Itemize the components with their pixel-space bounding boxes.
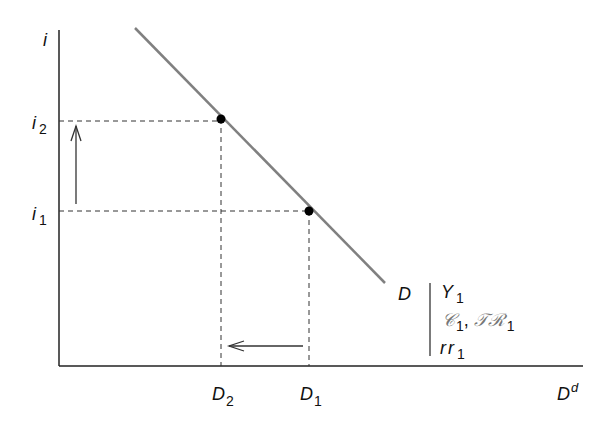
point-i2-D2	[217, 115, 226, 124]
money-demand-diagram: i i2 i1 D2 D1 Dd D Y1 𝒞1, 𝒯ℛ1 rr1	[0, 0, 612, 427]
y-axis-label: i	[43, 30, 48, 50]
tick-D1: D1	[300, 384, 322, 409]
point-i1-D1	[305, 207, 314, 216]
demand-curve	[135, 28, 385, 283]
param-rr1: rr1	[440, 338, 465, 362]
x-axis-label: Dd	[557, 380, 579, 404]
arrow-up-icon	[71, 126, 81, 204]
curve-label: D	[398, 284, 411, 304]
param-Y1: Y1	[441, 282, 464, 306]
tick-i2: i2	[32, 113, 47, 137]
param-C1-TR1: 𝒞1, 𝒯ℛ1	[442, 310, 515, 334]
tick-D2: D2	[212, 384, 234, 409]
tick-i1: i1	[32, 204, 47, 228]
arrow-left-icon	[229, 341, 303, 351]
